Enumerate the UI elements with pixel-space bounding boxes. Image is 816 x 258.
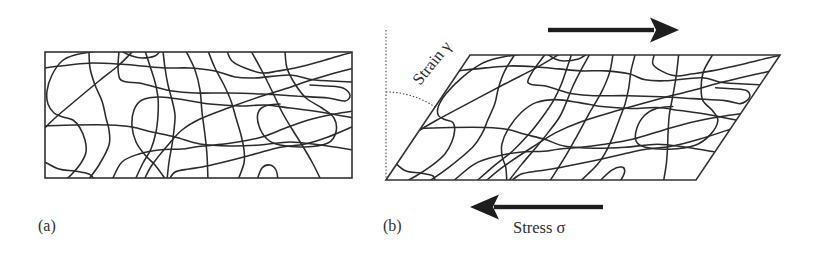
- polymer-chain: [169, 126, 354, 180]
- polymer-chain: [476, 54, 586, 182]
- panel-b-chains: [383, 54, 783, 182]
- stress-label: Stress σ: [513, 218, 566, 237]
- panel-a-chains: [43, 51, 354, 180]
- polymer-chain: [428, 54, 536, 182]
- polymer-chain: [47, 51, 96, 180]
- polymer-chain: [621, 54, 765, 149]
- polymer-chain: [163, 51, 175, 180]
- polymer-chain: [383, 163, 448, 182]
- polymer-chain: [257, 51, 336, 147]
- polymer-chain: [227, 51, 354, 73]
- polymer-chain: [549, 54, 672, 182]
- panel-a-label: (a): [38, 217, 56, 235]
- panel-a: (a): [38, 51, 354, 235]
- panel-b: Strain γ Stress σ (b): [383, 18, 783, 238]
- polymer-chain: [88, 51, 110, 180]
- polymer-chain: [186, 51, 208, 180]
- polymer-chain: [144, 68, 354, 180]
- panel-b-label: (b): [383, 217, 402, 235]
- strain-label: Strain γ: [408, 37, 455, 88]
- strain-angle-arc: [386, 92, 435, 107]
- arrow-left-icon: [470, 195, 603, 220]
- polymer-chain: [485, 71, 772, 182]
- polymer-network-shear-diagram: (a) Strain γ Stress σ (b): [0, 0, 816, 258]
- arrow-right-icon: [548, 18, 679, 43]
